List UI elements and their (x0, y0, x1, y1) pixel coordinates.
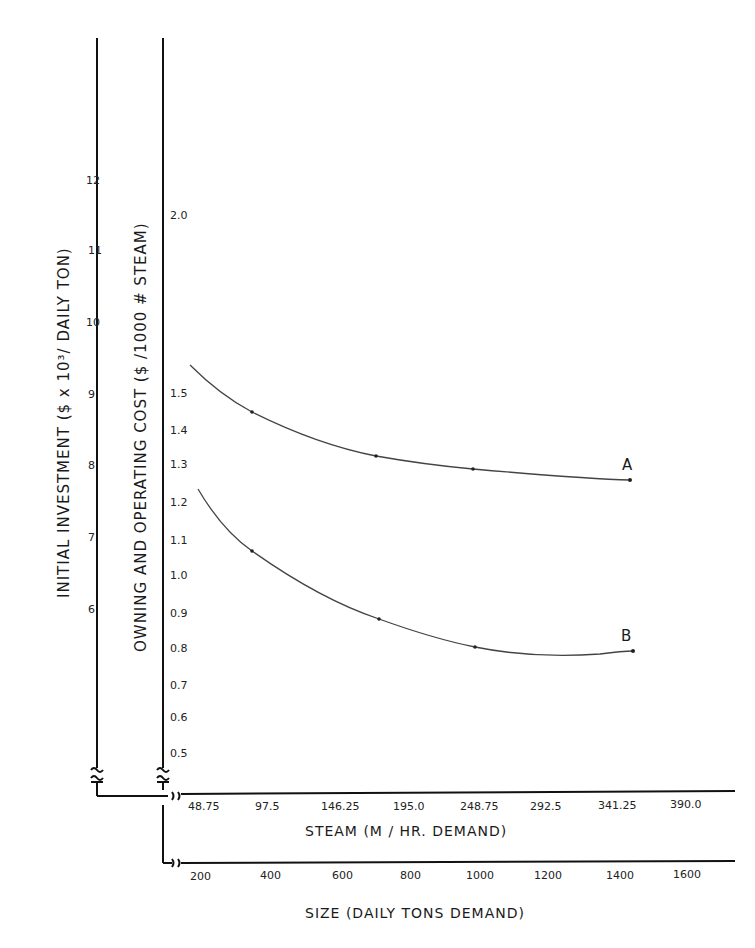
left-axis-ticks: 12 11 10 9 8 7 6 (86, 174, 102, 616)
chart: 12 11 10 9 8 7 6 2.0 1.5 1.4 1.3 1.2 1.1… (0, 0, 755, 948)
svg-text:11: 11 (88, 244, 102, 257)
curve-a-label: A (622, 456, 633, 474)
size-axis-title: SIZE (DAILY TONS DEMAND) (305, 905, 525, 921)
svg-text:12: 12 (86, 174, 100, 187)
curve-a-point (628, 478, 632, 482)
svg-text:195.0: 195.0 (393, 800, 425, 813)
svg-text:390.0: 390.0 (670, 798, 702, 811)
curve-a-point (471, 467, 475, 471)
svg-text:1.2: 1.2 (170, 496, 188, 509)
svg-text:1.1: 1.1 (170, 534, 188, 547)
svg-text:6: 6 (88, 603, 95, 616)
svg-text:292.5: 292.5 (530, 800, 562, 813)
right-axis-ticks: 2.0 1.5 1.4 1.3 1.2 1.1 1.0 0.9 0.8 0.7 … (170, 209, 188, 760)
steam-axis-title: STEAM (M / HR. DEMAND) (305, 823, 507, 839)
svg-text:0.5: 0.5 (170, 747, 188, 760)
size-x-axis (163, 859, 735, 867)
svg-text:1000: 1000 (466, 869, 494, 882)
svg-text:200: 200 (190, 870, 211, 883)
size-axis-ticks: 200 400 600 800 1000 1200 1400 1600 (190, 868, 701, 883)
svg-text:0.9: 0.9 (170, 607, 188, 620)
svg-text:8: 8 (88, 459, 95, 472)
svg-text:1.5: 1.5 (170, 387, 188, 400)
left-y-axis (91, 38, 168, 796)
curve-b: B (198, 489, 635, 656)
steam-x-axis (172, 791, 735, 800)
curve-b-point (377, 617, 381, 621)
curve-b-point (473, 645, 477, 649)
svg-text:248.75: 248.75 (460, 800, 499, 813)
svg-text:1200: 1200 (534, 869, 562, 882)
svg-text:9: 9 (88, 388, 95, 401)
svg-text:600: 600 (332, 869, 353, 882)
svg-text:0.7: 0.7 (170, 679, 188, 692)
steam-axis-ticks: 48.75 97.5 146.25 195.0 248.75 292.5 341… (188, 798, 702, 813)
svg-text:800: 800 (400, 869, 421, 882)
svg-text:400: 400 (260, 869, 281, 882)
svg-text:1600: 1600 (673, 868, 701, 881)
curve-a: A (190, 365, 633, 482)
svg-text:146.25: 146.25 (321, 800, 360, 813)
svg-text:0.8: 0.8 (170, 642, 188, 655)
svg-text:1.0: 1.0 (170, 569, 188, 582)
svg-text:0.6: 0.6 (170, 711, 188, 724)
svg-text:1400: 1400 (606, 869, 634, 882)
svg-text:7: 7 (88, 531, 95, 544)
svg-text:1.3: 1.3 (170, 458, 188, 471)
left-axis-title: INITIAL INVESTMENT ($ x 10³/ DAILY TON) (55, 247, 73, 598)
svg-text:2.0: 2.0 (170, 209, 188, 222)
right-axis-title: OWNING AND OPERATING COST ($ /1000 # STE… (132, 222, 150, 652)
svg-text:97.5: 97.5 (255, 800, 280, 813)
curve-b-label: B (621, 627, 631, 645)
right-y-axis (157, 38, 169, 863)
svg-text:10: 10 (86, 316, 100, 329)
curve-b-point (631, 649, 635, 653)
svg-text:1.4: 1.4 (170, 424, 188, 437)
svg-text:341.25: 341.25 (598, 799, 637, 812)
curve-a-point (250, 410, 254, 414)
svg-text:48.75: 48.75 (188, 800, 220, 813)
curve-a-point (374, 454, 378, 458)
curve-b-point (250, 549, 254, 553)
